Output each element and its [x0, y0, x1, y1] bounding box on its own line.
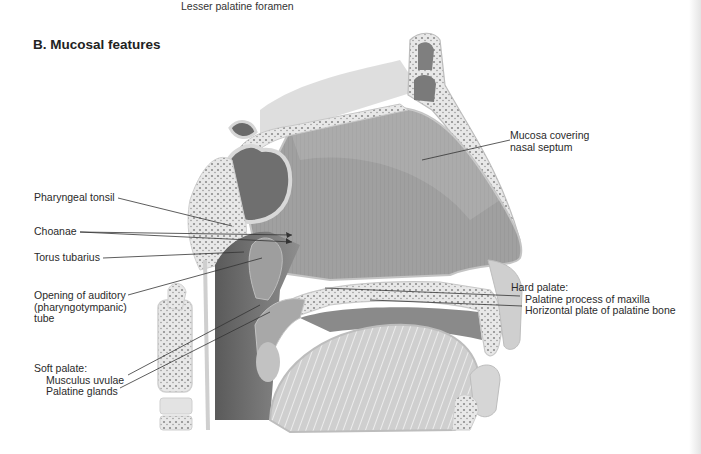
label-soft-palate: Soft palate: Musculus uvulae Palatine gl…: [34, 363, 124, 398]
frontal-sinus-lower: [414, 75, 436, 102]
palatine-tonsil: [256, 342, 280, 382]
label-auditory-tube: Opening of auditory (pharyngotympanic) t…: [34, 290, 127, 325]
label-hard-palate: Hard palate: Palatine process of maxilla…: [511, 282, 676, 317]
page-edge-shadow: [689, 0, 701, 454]
label-choanae: Choanae: [34, 226, 77, 238]
label-soft-palate-heading: Soft palate:: [34, 363, 124, 375]
label-palatine-glands: Palatine glands: [34, 386, 124, 398]
intervertebral-disc: [160, 398, 192, 414]
label-auditory-tube-line-1: Opening of auditory: [34, 290, 127, 302]
sphenoid-recess: [230, 122, 256, 138]
label-hard-palate-heading: Hard palate:: [511, 282, 676, 294]
label-pharyngeal-tonsil: Pharyngeal tonsil: [34, 192, 115, 204]
frontal-sinus-upper: [418, 42, 434, 70]
label-horizontal-plate-palatine: Horizontal plate of palatine bone: [511, 305, 676, 317]
label-mucosa-septum: Mucosa covering nasal septum: [510, 130, 589, 153]
label-mucosa-septum-line-1: Mucosa covering: [510, 130, 589, 142]
label-mucosa-septum-line-2: nasal septum: [510, 142, 589, 154]
label-torus-tubarius: Torus tubarius: [34, 252, 100, 264]
label-auditory-tube-line-3: tube: [34, 313, 127, 325]
atlas-arch: [168, 283, 186, 310]
vertebra-body: [158, 300, 192, 392]
